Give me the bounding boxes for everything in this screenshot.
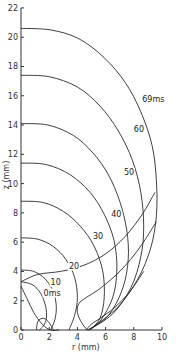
curve-label: 10 [51, 278, 61, 287]
y-tick-label: 20 [8, 33, 18, 42]
x-tick-label: 6 [103, 333, 108, 342]
y-tick-label: 4 [13, 267, 18, 276]
curve-label: 69ms [142, 95, 164, 104]
curves [21, 28, 157, 330]
y-tick-label: 8 [13, 209, 18, 218]
x-tick-label: 4 [75, 333, 80, 342]
x-tick-label: 10 [157, 333, 167, 342]
curve-trajectory-d [86, 271, 144, 330]
curve-label: 50 [124, 168, 134, 177]
curve-40 [21, 163, 117, 330]
x-tick-label: 0 [18, 333, 23, 342]
y-tick-label: 0 [13, 326, 18, 335]
y-tick-label: 16 [8, 92, 18, 101]
curve-label: 0ms [44, 289, 61, 298]
y-tick-label: 12 [8, 150, 18, 159]
y-tick-label: 6 [13, 238, 18, 247]
x-tick-label: 2 [47, 333, 52, 342]
x-tick-label: 8 [131, 333, 136, 342]
contour-chart: 0246810 0246810121416182022 0ms102030405… [0, 0, 176, 355]
x-axis-label: r (mm) [72, 343, 100, 352]
y-tick-label: 2 [13, 297, 18, 306]
curve-trajectory-b [21, 192, 155, 281]
curve-label: 40 [111, 210, 121, 219]
curve-label: 60 [134, 125, 144, 134]
y-tick-label: 14 [8, 121, 18, 130]
curve-label: 30 [93, 232, 103, 241]
y-tick-label: 18 [8, 62, 18, 71]
y-tick-label: 22 [8, 4, 18, 13]
axes [21, 8, 162, 330]
curve-label: 20 [69, 262, 79, 271]
curve-30 [21, 201, 104, 330]
y-axis-label: z (mm) [2, 161, 11, 190]
curve-trajectory-e [37, 318, 54, 330]
curve-69ms [21, 28, 157, 328]
